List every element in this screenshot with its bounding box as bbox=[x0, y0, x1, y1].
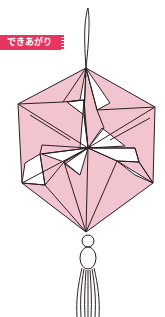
hexagon-ornament bbox=[18, 68, 155, 232]
tassel bbox=[77, 235, 100, 317]
origami-ornament-illustration bbox=[0, 0, 165, 317]
hanging-loop bbox=[85, 8, 89, 68]
